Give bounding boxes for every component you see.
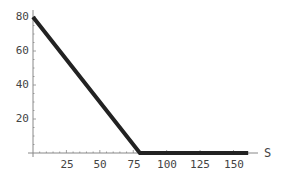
- payoff-line: [33, 17, 248, 153]
- y-tick-label: 20: [16, 112, 29, 125]
- x-tick-label: 125: [190, 158, 210, 171]
- x-tick-label: 75: [127, 158, 140, 171]
- y-tick-label: 40: [16, 78, 29, 91]
- x-axis-label: S: [264, 146, 271, 160]
- y-tick-label: 60: [16, 44, 29, 57]
- payoff-chart: 25 50 75 100 125 150 20 40 60 80 S: [0, 0, 282, 175]
- x-tick-label: 100: [157, 158, 177, 171]
- x-tick-label: 25: [60, 158, 73, 171]
- x-tick-label: 150: [224, 158, 244, 171]
- y-tick-label: 80: [16, 10, 29, 23]
- x-tick-label: 50: [93, 158, 106, 171]
